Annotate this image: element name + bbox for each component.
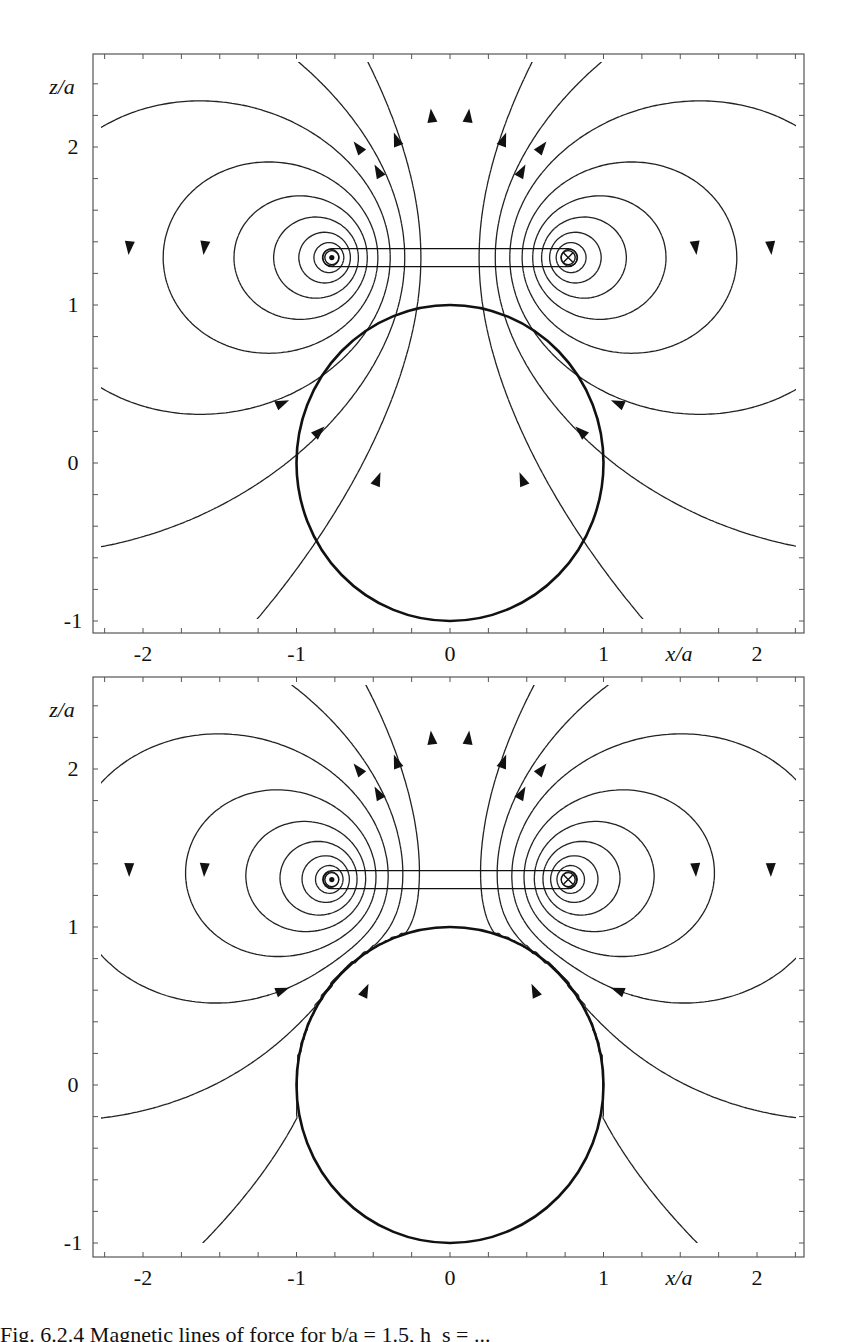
panel-bottom [93,677,804,1257]
arrowhead-icon [274,400,289,410]
y-tick-label: 1 [68,292,79,318]
x-tick-label: 1 [598,1265,609,1291]
arrowhead-icon [427,730,437,744]
arrowhead-icon [690,241,700,256]
x-tick-label: 2 [752,1265,763,1291]
field-line [302,856,598,903]
field-line [246,821,654,931]
field-lines [97,60,803,624]
plot-frame [93,54,804,633]
y-tick-label: -1 [64,1230,82,1256]
field-line [328,876,573,884]
x-axis-label: x/a [666,641,693,667]
x-tick-label: -2 [134,641,152,667]
arrowhead-icon [611,988,626,998]
y-tick-label: 2 [68,134,79,160]
x-tick-label: -1 [287,641,305,667]
arrowhead-icon [274,988,289,998]
field-direction-arrows [125,108,775,487]
arrowhead-icon [354,142,367,156]
plot-frame [93,677,804,1257]
arrowhead-icon [531,984,541,999]
arrowhead-icon [358,984,368,999]
x-tick-label: 1 [598,641,609,667]
field-direction-arrows [124,730,776,998]
field-line [322,249,577,266]
field-line [314,243,586,273]
arrowhead-icon [534,142,547,156]
arrowhead-icon [124,863,134,877]
arrowhead-icon [690,863,700,877]
arrowhead-icon [374,165,385,180]
figure: -2-1012-1012x/az/a-2-1012-1012x/az/a Fig… [0,0,844,1342]
field-line [163,162,737,353]
y-tick-label: -1 [64,608,82,634]
field-line [200,682,701,1246]
y-axis-label: z/a [49,74,75,100]
current-dot-icon [329,877,334,882]
x-tick-label: -2 [134,1265,152,1291]
x-tick-label: 0 [445,641,456,667]
x-tick-label: -1 [287,1265,305,1291]
field-line [327,253,572,262]
arrowhead-icon [125,241,135,255]
field-line [97,682,803,1118]
field-line [97,101,803,414]
arrowhead-icon [311,427,325,440]
arrowhead-icon [394,755,404,770]
figure-caption: Fig. 6.2.4 Magnetic lines of force for b… [0,1322,490,1342]
y-tick-label: 1 [68,914,79,940]
current-loop [323,249,577,267]
x-tick-label: 0 [445,1265,456,1291]
arrowhead-icon [371,472,381,487]
field-line-plot [0,0,844,1342]
field-line [323,872,577,888]
x-tick-label: 2 [752,641,763,667]
y-tick-label: 2 [68,756,79,782]
arrowhead-icon [766,863,776,877]
x-axis-label: x/a [666,1265,693,1291]
arrowhead-icon [765,241,775,255]
arrowhead-icon [427,108,437,122]
arrowhead-icon [200,863,210,877]
arrowhead-icon [575,427,589,440]
arrowhead-icon [497,755,507,770]
arrowhead-icon [519,472,529,487]
y-axis-label: z/a [49,697,75,723]
arrowhead-icon [200,241,210,256]
current-loop [323,871,577,889]
field-lines [97,682,803,1246]
arrowhead-icon [463,108,473,122]
y-tick-label: 0 [68,1072,79,1098]
arrowhead-icon [354,764,367,778]
field-line [253,60,647,624]
sphere-outline [297,305,604,621]
y-tick-label: 0 [68,450,79,476]
panel-top [93,54,804,633]
field-line [330,257,571,259]
arrowhead-icon [534,764,547,778]
field-line [186,790,715,957]
sphere-outline [297,927,604,1243]
arrowhead-icon [611,400,626,410]
arrowhead-icon [463,730,473,744]
arrowhead-icon [514,165,525,180]
current-dot-icon [329,255,334,260]
